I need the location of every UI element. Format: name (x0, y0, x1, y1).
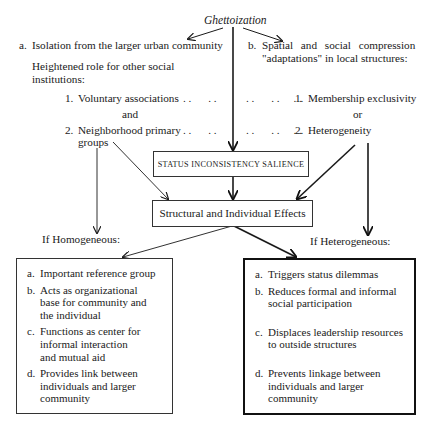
homogeneous-list: a. Important reference group b. Acts as … (27, 267, 155, 405)
heterogeneous-item-a: a. Triggers status dilemmas (255, 268, 403, 281)
branch-b-item-1-num: 1. (295, 92, 303, 105)
branch-b-item-2-num: 2. (295, 124, 303, 137)
branch-a-item-2-text-2: groups (78, 136, 108, 149)
heterogeneous-list: a. Triggers status dilemmas b. Reduces f… (255, 268, 403, 405)
branch-a-connector: and (122, 108, 138, 121)
branch-b-item-1-leader: . . . . . . (246, 92, 302, 105)
branch-b-connector: or (353, 108, 362, 121)
status-inconsistency-box: STATUS INCONSISTENCY SALIENCE (153, 151, 309, 177)
branch-b-item-1-text: Membership exclusivity (308, 92, 416, 105)
branch-b-text-2: "adaptations" in local structures: (262, 52, 408, 65)
heterogeneous-item-d: d. Prevents linkage between individuals … (255, 367, 403, 405)
branch-a-subheading-2: institutions: (32, 73, 85, 86)
arrow-to-branch-a (188, 28, 223, 39)
branch-a-item-1-text: Voluntary associations (78, 92, 179, 105)
heterogeneous-item-c: c. Displaces leadership resources to out… (255, 326, 403, 351)
branch-b-text-1: Spatial and social compression (262, 39, 415, 52)
homogeneous-item-d: d. Provides link between individuals and… (27, 367, 155, 405)
structural-effects-box: Structural and Individual Effects (152, 200, 313, 227)
homogeneous-heading: If Homogeneous: (42, 233, 120, 246)
homogeneous-item-a: a. Important reference group (27, 267, 155, 280)
status-box-label: STATUS INCONSISTENCY SALIENCE (158, 160, 304, 169)
branch-a-item-2-num: 2. (65, 124, 73, 137)
heterogeneous-effects-box: a. Triggers status dilemmas b. Reduces f… (243, 258, 416, 415)
branch-a-subheading-1: Heightened role for other social (32, 60, 174, 73)
branch-a-item-1-leader: . . . . (183, 92, 217, 105)
branch-b-item-2-text: Heterogeneity (308, 124, 371, 137)
branch-a-text: Isolation from the larger urban communit… (32, 39, 223, 52)
arrow-effects-to-heterogeneous-box (234, 226, 296, 257)
heterogeneous-heading: If Heterogeneous: (310, 235, 390, 248)
branch-b-label: b. (248, 39, 256, 52)
heterogeneous-item-b: b. Reduces formal and informal social pa… (255, 285, 403, 310)
homogeneous-item-b: b. Acts as organizational base for commu… (27, 284, 155, 322)
homogeneous-effects-box: a. Important reference group b. Acts as … (16, 258, 173, 414)
branch-a-label: a. (19, 39, 27, 52)
branch-b-item-2-leader: . . . . . . (246, 124, 302, 137)
arrow-effects-to-homogeneous-box (123, 226, 232, 257)
branch-a-item-2-leader: . . . . (183, 124, 217, 137)
effects-box-label: Structural and Individual Effects (159, 207, 305, 220)
diagram-title: Ghettoization (204, 14, 267, 26)
homogeneous-item-c: c. Functions as center for informal inte… (27, 325, 155, 363)
branch-a-item-1-num: 1. (65, 92, 73, 105)
